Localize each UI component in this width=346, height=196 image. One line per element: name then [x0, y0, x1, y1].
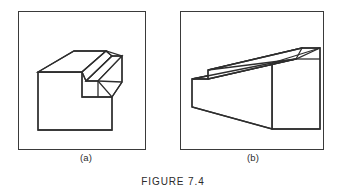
panel-a-drawing [18, 11, 146, 150]
panels-row: (a) (b) [0, 0, 346, 176]
panel-b-drawing [180, 11, 324, 150]
panel-b-label: (b) [174, 152, 332, 163]
figure-caption: FIGURE 7.4 [0, 176, 346, 187]
panel-a: (a) [12, 0, 160, 176]
panel-a-label: (a) [12, 152, 160, 163]
step-inner-edge [86, 81, 98, 97]
figure-page: (a) (b) FIGURE 7 [0, 0, 346, 196]
panel-b: (b) [174, 0, 332, 176]
